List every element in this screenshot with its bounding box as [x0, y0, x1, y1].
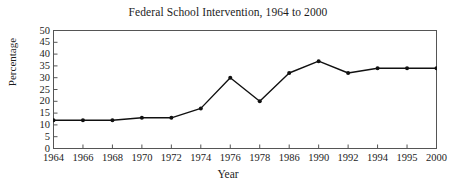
y-axis-tick-label: 25	[40, 85, 51, 95]
x-axis-tick-label: 1986	[279, 151, 300, 164]
x-axis-tick-label: 1972	[161, 151, 182, 164]
data-point-marker	[376, 66, 380, 70]
data-point-marker	[228, 76, 232, 80]
chart-figure: Federal School Intervention, 1964 to 200…	[0, 0, 456, 191]
x-axis-tick-label: 1966	[72, 151, 93, 164]
x-axis-tick-label: 1994	[367, 151, 388, 164]
x-axis-tick-label: 1990	[308, 151, 329, 164]
data-point-marker	[258, 99, 262, 103]
data-point-marker	[140, 116, 144, 120]
y-axis-tick-label: 30	[40, 73, 51, 83]
y-axis-tick-label: 10	[40, 120, 51, 130]
x-axis-tick-label: 1995	[397, 151, 418, 164]
data-point-marker	[287, 71, 291, 75]
data-point-marker	[110, 118, 114, 122]
y-axis-tick-label: 5	[45, 132, 50, 142]
data-point-marker	[405, 66, 409, 70]
x-axis-tick-label: 1992	[338, 151, 359, 164]
x-axis-tick-label: 1964	[43, 151, 64, 164]
x-axis-tick-label: 1976	[220, 151, 241, 164]
x-axis-tick-labels: 1964196619681970197219741976197819861990…	[0, 151, 456, 167]
y-axis-tick-label: 50	[40, 26, 51, 36]
x-axis-label: Year	[0, 168, 456, 180]
y-axis-tick-label: 35	[40, 61, 51, 71]
chart-title: Federal School Intervention, 1964 to 200…	[0, 6, 456, 18]
data-point-marker	[169, 116, 173, 120]
x-axis-tick-label: 1968	[102, 151, 123, 164]
x-axis-tick-label: 1978	[249, 151, 270, 164]
y-axis-tick-label: 20	[40, 96, 51, 106]
data-point-marker	[81, 118, 85, 122]
data-point-marker	[346, 71, 350, 75]
x-axis-tick-label: 1970	[131, 151, 152, 164]
line-chart-svg	[53, 30, 437, 149]
y-axis-tick-label: 40	[40, 49, 51, 59]
x-axis-tick-label: 2000	[426, 151, 447, 164]
y-axis-tick-label: 45	[40, 37, 51, 47]
y-axis-label: Percentage	[6, 22, 18, 102]
data-point-marker	[317, 59, 321, 63]
x-axis-tick-label: 1974	[190, 151, 211, 164]
y-axis-tick-label: 15	[40, 108, 51, 118]
data-point-marker	[199, 106, 203, 110]
plot-area	[53, 30, 437, 149]
